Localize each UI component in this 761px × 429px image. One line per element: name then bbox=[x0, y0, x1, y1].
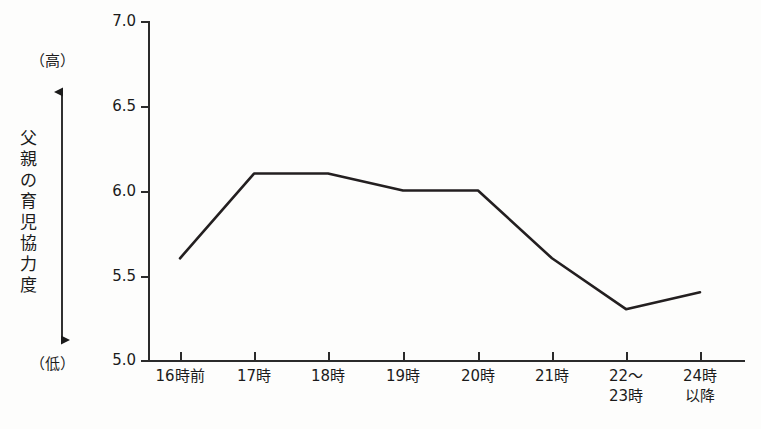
y-tick-label: 5.0 bbox=[100, 351, 136, 369]
y-tick-mark bbox=[141, 106, 149, 108]
axis-low-label: （低） bbox=[0, 352, 105, 373]
y-axis-title: 父 親 の 育 児 協 力 度 bbox=[14, 128, 42, 296]
x-tick-label: 24時 以降 bbox=[652, 366, 748, 406]
y-tick-label: 6.0 bbox=[100, 182, 136, 200]
y-tick-label: 7.0 bbox=[100, 12, 136, 30]
y-tick-label: 5.5 bbox=[100, 267, 136, 285]
x-tick-mark bbox=[254, 352, 256, 361]
x-tick-mark bbox=[552, 352, 554, 361]
x-tick-mark bbox=[328, 352, 330, 361]
x-tick-mark bbox=[700, 352, 702, 361]
axis-high-label: （高） bbox=[0, 49, 105, 70]
x-tick-mark bbox=[180, 352, 182, 361]
x-tick-mark bbox=[478, 352, 480, 361]
x-tick-mark bbox=[626, 352, 628, 361]
x-axis-line bbox=[148, 360, 745, 362]
line-chart: （高） 父 親 の 育 児 協 力 度 （低） 7.0 6.5 6.0 5.5 … bbox=[0, 0, 761, 429]
y-tick-mark bbox=[141, 191, 149, 193]
y-tick-mark bbox=[141, 276, 149, 278]
y-tick-mark bbox=[141, 21, 149, 23]
y-tick-mark bbox=[141, 360, 149, 362]
y-tick-label: 6.5 bbox=[100, 97, 136, 115]
y-axis-tick-labels: 7.0 6.5 6.0 5.5 5.0 bbox=[98, 0, 136, 429]
y-axis-annotation: （高） 父 親 の 育 児 協 力 度 （低） bbox=[0, 0, 105, 340]
x-tick-mark bbox=[403, 352, 405, 361]
